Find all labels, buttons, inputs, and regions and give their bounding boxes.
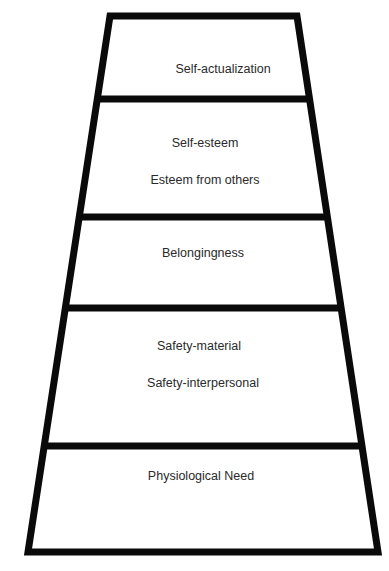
level-self-actualization-label: Self-actualization (175, 62, 270, 76)
level-safety-interpersonal-label: Safety-interpersonal (147, 376, 259, 390)
level-physiological-label: Physiological Need (148, 469, 254, 483)
level-self-esteem-label: Self-esteem (172, 136, 239, 150)
level-belongingness-label: Belongingness (162, 246, 244, 260)
level-esteem-from-others-label: Esteem from others (150, 173, 259, 187)
pyramid-diagram (0, 0, 389, 571)
level-safety-material-label: Safety-material (157, 339, 241, 353)
